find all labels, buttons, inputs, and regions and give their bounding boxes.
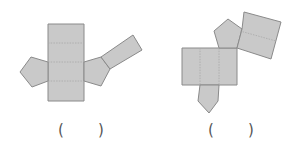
left-net-rectangle-strip (48, 24, 84, 101)
left-net-left-pentagon (20, 57, 48, 87)
right-net-tilted-square (237, 12, 281, 59)
left-answer-open-paren: ( (58, 123, 64, 138)
diagram-canvas (0, 0, 299, 150)
right-net-rectangle-strip (182, 48, 237, 85)
right-answer-close-paren: ) (248, 123, 254, 138)
left-answer-close-paren: ) (98, 123, 104, 138)
right-net (182, 12, 281, 113)
left-net (20, 24, 142, 101)
right-answer-open-paren: ( (208, 123, 214, 138)
right-net-bottom-pentagon (198, 85, 219, 113)
left-net-tilted-square (101, 35, 142, 69)
